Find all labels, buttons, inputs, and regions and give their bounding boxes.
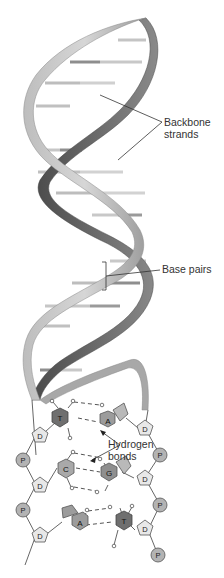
base-C: C xyxy=(58,459,74,478)
svg-text:T: T xyxy=(58,414,63,423)
base-A-top: A xyxy=(100,403,128,427)
svg-text:A: A xyxy=(105,417,111,426)
dna-helix-illustration: T A C G A T D D D D D D xyxy=(0,0,224,578)
label-hydrogen-line1: Hydrogen xyxy=(108,438,154,450)
label-backbone-line2: strands xyxy=(164,128,211,140)
svg-text:C: C xyxy=(63,465,69,474)
svg-text:P: P xyxy=(157,501,162,510)
phosphate-labels: P P P P P xyxy=(20,451,162,560)
svg-text:T: T xyxy=(122,517,127,526)
label-hydrogen-line2: bonds xyxy=(108,450,154,462)
label-base-pairs: Base pairs xyxy=(162,263,212,275)
svg-text:D: D xyxy=(37,432,43,441)
base-T-top: T xyxy=(52,408,68,427)
svg-text:P: P xyxy=(20,506,25,515)
svg-text:P: P xyxy=(155,551,160,560)
svg-text:A: A xyxy=(77,519,83,528)
label-hydrogen-bonds: Hydrogen bonds xyxy=(108,438,154,462)
base-T-bottom: T xyxy=(116,511,132,530)
backbone-strand-back xyxy=(32,18,158,400)
dna-diagram: T A C G A T D D D D D D xyxy=(0,0,224,578)
svg-text:D: D xyxy=(142,425,148,434)
svg-text:D: D xyxy=(37,532,43,541)
arrowheads xyxy=(90,430,106,463)
svg-text:D: D xyxy=(37,482,43,491)
svg-text:G: G xyxy=(106,469,112,478)
label-backbone-strands: Backbone strands xyxy=(164,116,211,140)
svg-text:D: D xyxy=(142,525,148,534)
base-A-bottom: A xyxy=(62,505,88,530)
svg-text:P: P xyxy=(20,456,25,465)
svg-text:P: P xyxy=(157,451,162,460)
svg-text:D: D xyxy=(142,475,148,484)
phosphate-groups xyxy=(16,448,167,562)
label-backbone-line1: Backbone xyxy=(164,116,211,128)
